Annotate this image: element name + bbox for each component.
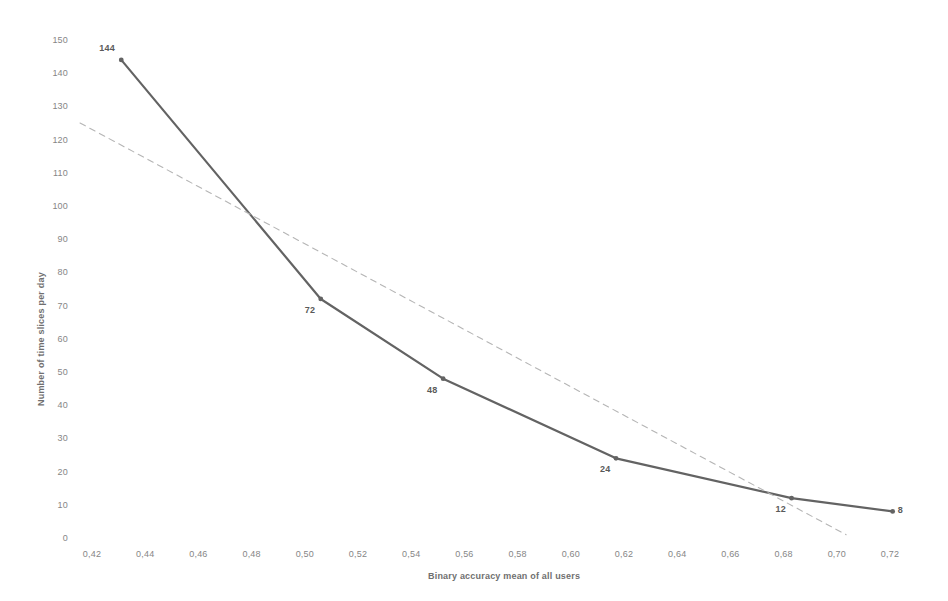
- x-tick-label: 0,48: [242, 549, 260, 559]
- y-tick-label: 0: [40, 533, 68, 543]
- x-tick-label: 0,56: [455, 549, 473, 559]
- x-tick-label: 0,70: [828, 549, 846, 559]
- y-tick-label: 140: [40, 68, 68, 78]
- data-point-marker: [789, 496, 794, 501]
- data-point-label: 24: [600, 464, 610, 474]
- x-tick-label: 0,72: [881, 549, 899, 559]
- data-point-label: 48: [427, 385, 437, 395]
- y-tick-label: 110: [40, 168, 68, 178]
- x-tick-label: 0,62: [615, 549, 633, 559]
- x-tick-label: 0,52: [349, 549, 367, 559]
- y-tick-label: 30: [40, 433, 68, 443]
- y-tick-label: 10: [40, 500, 68, 510]
- data-point-marker: [318, 297, 323, 302]
- y-tick-label: 100: [40, 201, 68, 211]
- data-point-label: 144: [99, 43, 115, 53]
- y-tick-label: 20: [40, 467, 68, 477]
- data-point-label: 8: [898, 505, 903, 515]
- x-tick-label: 0,64: [668, 549, 686, 559]
- x-tick-label: 0,58: [508, 549, 526, 559]
- data-point-label: 12: [776, 504, 786, 514]
- data-point-marker: [890, 509, 895, 514]
- data-point-marker: [614, 456, 619, 461]
- data-point-marker: [441, 376, 446, 381]
- y-tick-label: 120: [40, 135, 68, 145]
- x-tick-label: 0,66: [721, 549, 739, 559]
- x-tick-label: 0,54: [402, 549, 420, 559]
- x-tick-label: 0,68: [774, 549, 792, 559]
- x-tick-label: 0,42: [83, 549, 101, 559]
- x-tick-label: 0,46: [189, 549, 207, 559]
- x-tick-label: 0,44: [136, 549, 154, 559]
- data-point-marker: [119, 58, 124, 63]
- x-axis-title: Binary accuracy mean of all users: [428, 571, 580, 581]
- data-point-label: 72: [305, 305, 315, 315]
- plot-area: [0, 0, 948, 601]
- y-tick-label: 150: [40, 35, 68, 45]
- x-tick-label: 0,60: [562, 549, 580, 559]
- y-axis-title: Number of time slices per day: [36, 272, 46, 406]
- y-tick-label: 130: [40, 101, 68, 111]
- x-tick-label: 0,50: [296, 549, 314, 559]
- y-tick-label: 90: [40, 234, 68, 244]
- series-line: [80, 123, 846, 535]
- chart-container: 0102030405060708090100110120130140150 0,…: [0, 0, 948, 601]
- series-line: [121, 60, 892, 512]
